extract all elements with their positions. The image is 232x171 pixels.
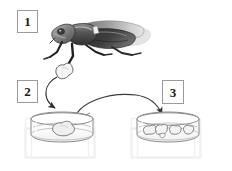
- explant-in-dish: [53, 121, 75, 136]
- petri-dish-left: [31, 112, 93, 142]
- figure-canvas: 1 2 3: [0, 0, 232, 171]
- petri-dish-right: [137, 112, 199, 142]
- arrow-blob-to-left-dish: [46, 77, 57, 108]
- leafhopper-icon: [44, 21, 150, 69]
- step-label-3: 3: [162, 80, 184, 104]
- tissue-explant-blob: [56, 63, 73, 78]
- step-label-1: 1: [17, 10, 38, 33]
- step-label-2: 2: [17, 80, 38, 103]
